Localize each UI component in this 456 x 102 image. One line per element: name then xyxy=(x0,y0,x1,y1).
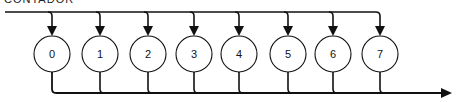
output-branch xyxy=(148,72,152,93)
input-branch xyxy=(284,12,288,28)
output-branch xyxy=(380,72,384,93)
node-label: 6 xyxy=(330,48,336,60)
bottom-bus-line xyxy=(52,72,442,93)
top-bus-line xyxy=(5,12,380,28)
output-branch xyxy=(333,72,337,93)
node-label: 1 xyxy=(97,48,103,60)
input-branch xyxy=(190,12,194,28)
output-branch xyxy=(194,72,198,93)
output-branch xyxy=(288,72,292,93)
ring-counter-diagram: 01234567 xyxy=(0,0,456,102)
input-arrow-icon xyxy=(375,26,385,36)
node-label: 4 xyxy=(236,48,242,60)
output-branch xyxy=(100,72,104,93)
input-branch xyxy=(48,12,52,28)
node-label: 5 xyxy=(285,48,291,60)
output-arrow-icon xyxy=(441,88,452,98)
input-arrow-icon xyxy=(328,26,338,36)
output-branch xyxy=(239,72,243,93)
input-branch xyxy=(144,12,148,28)
input-arrow-icon xyxy=(47,26,57,36)
input-arrow-icon xyxy=(189,26,199,36)
node-label: 3 xyxy=(191,48,197,60)
input-arrow-icon xyxy=(143,26,153,36)
input-branch xyxy=(96,12,100,28)
input-branch xyxy=(329,12,333,28)
input-arrow-icon xyxy=(283,26,293,36)
input-branch xyxy=(235,12,239,28)
node-label: 7 xyxy=(377,48,383,60)
node-label: 0 xyxy=(49,48,55,60)
input-arrow-icon xyxy=(234,26,244,36)
node-label: 2 xyxy=(145,48,151,60)
input-arrow-icon xyxy=(95,26,105,36)
